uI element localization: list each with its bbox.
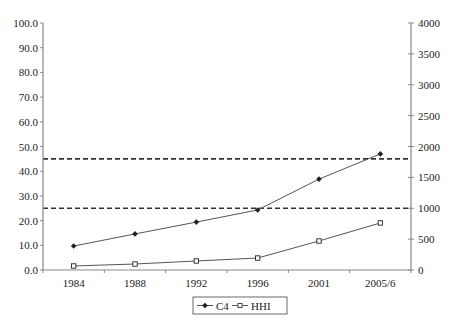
- x-axis-tick-label: 1988: [124, 277, 147, 289]
- right-axis-tick-label: 0: [418, 264, 424, 276]
- series: [71, 151, 383, 268]
- data-point-hhi: [255, 256, 259, 260]
- axes: 0.010.020.030.040.050.060.070.080.090.01…: [13, 17, 440, 289]
- x-axis-tick-label: 2001: [308, 277, 330, 289]
- left-axis-tick-label: 50.0: [19, 141, 39, 153]
- legend-label-c4: C4: [216, 300, 229, 312]
- left-axis-tick-label: 10.0: [19, 239, 39, 251]
- data-point-hhi: [194, 259, 198, 263]
- square-marker-icon: [238, 304, 242, 308]
- right-axis-tick-label: 3500: [418, 48, 441, 60]
- x-axis-tick-label: 1996: [247, 277, 270, 289]
- data-point-c4: [71, 243, 77, 249]
- data-point-hhi: [317, 239, 321, 243]
- left-axis-tick-label: 80.0: [19, 66, 39, 78]
- left-axis-tick-label: 40.0: [19, 165, 39, 177]
- left-axis-tick-label: 70.0: [19, 91, 39, 103]
- x-axis-tick-label: 1992: [185, 277, 207, 289]
- right-axis-tick-label: 500: [418, 233, 435, 245]
- right-axis-tick-label: 2500: [418, 110, 441, 122]
- x-axis-tick-label: 1984: [63, 277, 86, 289]
- legend-label-hhi: HHI: [251, 300, 271, 312]
- right-axis-tick-label: 1000: [418, 202, 441, 214]
- left-axis-tick-label: 60.0: [19, 116, 39, 128]
- data-point-hhi: [378, 221, 382, 225]
- left-axis-tick-label: 30.0: [19, 190, 39, 202]
- x-axis-tick-label: 2005/6: [365, 277, 396, 289]
- legend: C4 HHI: [193, 297, 287, 314]
- right-axis-tick-label: 4000: [418, 17, 441, 29]
- reference-lines: [43, 159, 411, 208]
- chart: 0.010.020.030.040.050.060.070.080.090.01…: [0, 0, 452, 326]
- data-point-c4: [378, 151, 384, 157]
- series-line-c4: [74, 154, 381, 246]
- left-axis-tick-label: 90.0: [19, 42, 39, 54]
- series-line-hhi: [74, 223, 381, 266]
- right-axis-tick-label: 1500: [418, 171, 441, 183]
- left-axis-tick-label: 100.0: [13, 17, 38, 29]
- left-axis-tick-label: 20.0: [19, 215, 39, 227]
- data-point-hhi: [71, 264, 75, 268]
- data-point-c4: [132, 231, 138, 237]
- data-point-hhi: [133, 262, 137, 266]
- right-axis-tick-label: 3000: [418, 79, 441, 91]
- data-point-c4: [194, 219, 200, 225]
- data-point-c4: [316, 176, 322, 182]
- right-axis-tick-label: 2000: [418, 141, 441, 153]
- left-axis-tick-label: 0.0: [24, 264, 38, 276]
